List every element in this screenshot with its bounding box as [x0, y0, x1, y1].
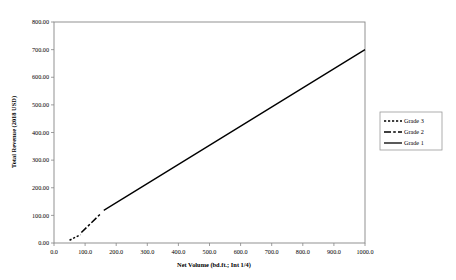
x-tick-label: 800.0 — [296, 248, 310, 255]
x-tick-label: 300.0 — [140, 248, 154, 255]
x-tick-label: 500.0 — [203, 248, 217, 255]
x-tick-label: 700.0 — [265, 248, 279, 255]
chart-legend: Grade 3Grade 2Grade 1 — [380, 112, 442, 150]
y-axis-title: Total Revenue (2018 USD) — [10, 96, 18, 168]
y-tick-label: 100.00 — [32, 212, 49, 219]
legend-label-grade-3: Grade 3 — [404, 117, 424, 124]
x-tick-label: 600.0 — [234, 248, 248, 255]
y-tick-label: 600.00 — [32, 73, 49, 80]
y-tick-label: 300.00 — [32, 156, 49, 163]
y-tick-label: 700.00 — [32, 46, 49, 53]
x-tick-label: 0.0 — [50, 248, 58, 255]
x-tick-label: 200.0 — [109, 248, 123, 255]
x-tick-label: 400.0 — [171, 248, 185, 255]
x-tick-label: 1000.0 — [356, 248, 373, 255]
x-tick-label: 100.0 — [78, 248, 92, 255]
y-tick-label: 200.00 — [32, 184, 49, 191]
legend-label-grade-1: Grade 1 — [404, 139, 424, 146]
y-tick-label: 800.00 — [32, 18, 49, 25]
line-chart: 0.00100.00200.00300.00400.00500.00600.00… — [0, 0, 456, 280]
y-tick-label: 400.00 — [32, 129, 49, 136]
x-tick-label: 900.0 — [327, 248, 341, 255]
y-tick-label: 0.00 — [38, 239, 49, 246]
chart-container: 0.00100.00200.00300.00400.00500.00600.00… — [0, 0, 456, 280]
legend-label-grade-2: Grade 2 — [404, 128, 424, 135]
x-axis-title: Net Volume (bd.ft.; Int 1/4) — [177, 261, 251, 269]
y-tick-label: 500.00 — [32, 101, 49, 108]
